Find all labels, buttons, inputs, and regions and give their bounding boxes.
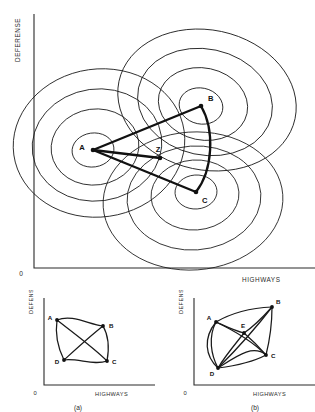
panel-b-node-b-dot	[270, 305, 274, 309]
main-origin-label: 0	[19, 270, 23, 277]
panel-a-node-d-label: D	[55, 358, 60, 365]
panel-b-edge-a-b	[216, 307, 272, 322]
main-y-axis-label: DEFERENSE	[14, 18, 21, 62]
panel-a-y-axis-label: DEFENSE	[28, 290, 34, 314]
panel-b-node-a-dot	[214, 320, 218, 324]
panel-a-axes	[44, 298, 155, 385]
panel-a: A B C D DEFENSE HIGHWAYS 0 (a)	[0, 290, 155, 412]
panel-b-edge-a-e	[216, 322, 244, 333]
panel-b-node-e-dot	[242, 331, 246, 335]
panel-b-origin-label: 0	[183, 390, 186, 396]
panel-b-node-b-label: B	[276, 298, 281, 305]
panel-a-node-a-dot	[55, 318, 59, 322]
contour-b-3	[127, 36, 282, 168]
panel-b: A B C D E DEFENSE HIGHWAYS 0 (b)	[155, 290, 315, 412]
contour-a-3	[25, 80, 169, 209]
panel-a-node-b-label: B	[109, 322, 114, 329]
panel-a-edge-b-d	[64, 326, 103, 360]
point-z-dot	[158, 156, 163, 161]
point-c-label: C	[202, 196, 208, 205]
point-z-label: Z	[156, 145, 161, 154]
panel-a-edge-a-c	[57, 320, 107, 361]
panel-b-node-c-dot	[264, 353, 268, 357]
panel-a-node-d-dot	[62, 358, 66, 362]
panel-b-edge-d-e	[218, 333, 244, 368]
point-a-dot	[91, 148, 96, 153]
panel-b-edges	[207, 307, 272, 368]
point-b-dot	[199, 104, 204, 109]
contour-group-c	[98, 126, 287, 276]
point-c-dot	[194, 190, 199, 195]
point-b-label: B	[208, 94, 214, 103]
contour-c-3	[124, 141, 265, 254]
contour-a-2	[46, 103, 144, 191]
panel-b-edge-b-e	[244, 307, 272, 333]
edge-b-c	[196, 106, 210, 192]
panel-a-x-axis-label: HIGHWAYS	[95, 391, 128, 397]
panel-b-x-axis-label: HIGHWAYS	[253, 391, 286, 397]
panel-b-node-c-label: C	[271, 352, 276, 359]
main-chart: A B C Z DEFERENSE HIGHWAYS 0	[0, 0, 315, 290]
point-a-label: A	[79, 143, 85, 152]
panel-b-caption: (b)	[251, 404, 259, 412]
panel-b-node-d-dot	[216, 366, 220, 370]
panel-b-y-axis-label: DEFENSE	[178, 290, 184, 314]
panel-a-edge-b-c	[103, 326, 108, 361]
figure-root: A B C Z DEFERENSE HIGHWAYS 0 A B C D DEF…	[0, 0, 315, 412]
panel-b-node-e-label: E	[241, 322, 245, 329]
panel-a-node-c-dot	[105, 359, 109, 363]
bargaining-region	[93, 106, 210, 192]
panel-a-edge-d-a	[56, 320, 64, 360]
panel-a-node-c-label: C	[112, 358, 117, 365]
panel-a-edges	[56, 318, 108, 363]
panel-b-node-a-label: A	[207, 314, 212, 321]
panel-a-origin-label: 0	[33, 390, 36, 396]
panel-b-edge-d-c-curve	[218, 351, 266, 368]
panel-a-node-a-label: A	[48, 314, 53, 321]
main-x-axis-label: HIGHWAYS	[242, 276, 280, 283]
panel-a-caption: (a)	[74, 404, 82, 412]
panel-b-node-d-label: D	[210, 370, 215, 377]
panel-a-edge-c-d	[64, 360, 107, 363]
contour-c-2	[149, 157, 242, 233]
panel-a-node-b-dot	[101, 324, 105, 328]
